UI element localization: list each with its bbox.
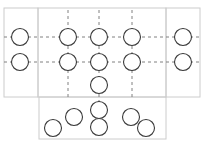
node-left-2 xyxy=(12,54,29,71)
node-right-1 xyxy=(175,29,192,46)
diagram-canvas xyxy=(0,0,203,151)
node-bottom-1 xyxy=(45,120,62,137)
right-frame xyxy=(166,8,200,97)
node-center-stack-1 xyxy=(91,77,108,94)
node-grid-r2c3 xyxy=(124,54,141,71)
node-grid-r2c2 xyxy=(91,54,108,71)
node-grid-r1c3 xyxy=(124,29,141,46)
node-right-2 xyxy=(175,54,192,71)
node-center-stack-2 xyxy=(91,102,108,119)
node-bottom-4 xyxy=(138,120,155,137)
left-frame xyxy=(4,8,38,97)
node-left-1 xyxy=(12,29,29,46)
node-grid-r1c1 xyxy=(60,29,77,46)
node-grid-r2c1 xyxy=(60,54,77,71)
node-bottom-2 xyxy=(66,109,83,126)
node-bottom-3 xyxy=(123,109,140,126)
node-center-stack-3 xyxy=(91,119,108,136)
lattice-diagram xyxy=(0,0,203,151)
node-grid-r1c2 xyxy=(91,29,108,46)
